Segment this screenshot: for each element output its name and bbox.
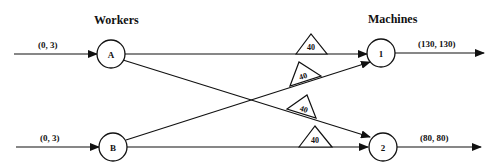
machine-node-2: 2 xyxy=(369,133,397,161)
worker-node-a-label: A xyxy=(108,50,115,60)
output-label-2: (80, 80) xyxy=(420,133,449,143)
workers-header: Workers xyxy=(94,13,139,27)
machines-header: Machines xyxy=(368,12,418,26)
worker-node-b: B xyxy=(99,133,127,161)
edge-a-2 xyxy=(123,60,370,137)
edge-b-1 xyxy=(126,62,370,140)
gain-triangle-b-2: 40 xyxy=(299,126,332,147)
input-label-b: (0, 3) xyxy=(40,133,60,143)
input-label-a: (0, 3) xyxy=(38,40,58,50)
worker-node-a: A xyxy=(97,40,125,68)
gain-triangle-a-1: 40 xyxy=(296,34,327,54)
gain-label-a-1: 40 xyxy=(307,43,315,52)
gain-triangle-a-2: 40 xyxy=(287,95,316,118)
machine-node-1: 1 xyxy=(367,39,395,67)
machine-node-2-label: 2 xyxy=(381,143,386,153)
output-label-1: (130, 130) xyxy=(418,39,456,49)
worker-machine-network-diagram: Workers Machines (0, 3) (0, 3) 40 40 40 … xyxy=(0,0,496,166)
machine-node-1-label: 1 xyxy=(379,49,384,59)
worker-node-b-label: B xyxy=(110,143,116,153)
gain-label-b-2: 40 xyxy=(311,136,319,145)
